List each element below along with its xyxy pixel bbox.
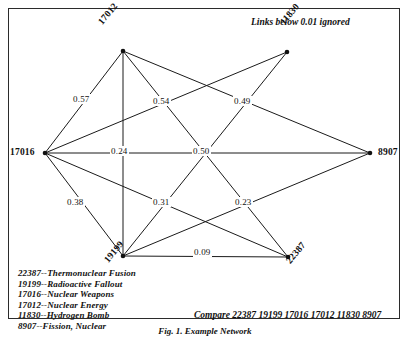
node-dot-11830[interactable] (285, 50, 290, 55)
legend-item: 22387--Thermonuclear Fusion (18, 268, 136, 279)
node-label-8907: 8907 (378, 147, 398, 157)
node-label-17016: 17016 (10, 147, 35, 157)
node-dot-17016[interactable] (43, 151, 48, 156)
edge-weight-17012-22387: 0.54 (152, 96, 171, 106)
edge-weight-11830-19199: 0.49 (233, 96, 252, 106)
edge-weight-crossing-0: 0.50 (192, 146, 211, 156)
legend-item: 19199--Radioactive Fallout (18, 279, 136, 290)
node-dot-8907[interactable] (368, 151, 373, 156)
edge-weight-17016-8907: 0.24 (110, 146, 129, 156)
legend-item: 17016--Nuclear Weapons (18, 289, 136, 300)
legend-item: 11830--Hydrogen Bomb (18, 310, 136, 321)
edge-weight-19199-22387: 0.09 (193, 247, 212, 257)
edge-weight-17012-17016: 0.57 (72, 94, 91, 104)
legend: 22387--Thermonuclear Fusion19199--Radioa… (18, 268, 136, 332)
figure-caption: Fig. 1. Example Network (0, 326, 410, 336)
edge-weight-crossing-2: 0.23 (234, 197, 253, 207)
edge-weight-crossing-1: 0.31 (152, 197, 171, 207)
figure-page: Links below 0.01 ignored Compare 22387 1… (0, 0, 410, 348)
edge-weight-17016-19199: 0.38 (66, 197, 85, 207)
legend-item: 17012--Nuclear Energy (18, 300, 136, 311)
note-links-ignored: Links below 0.01 ignored (251, 17, 350, 27)
node-dot-19199[interactable] (121, 254, 126, 259)
node-dot-17012[interactable] (121, 49, 126, 54)
note-compare: Compare 22387 19199 17016 17012 11830 89… (194, 310, 381, 320)
